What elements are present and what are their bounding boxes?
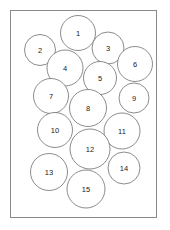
circle-label: 15	[82, 185, 90, 194]
circle-label: 2	[38, 46, 42, 55]
packed-circles-group: 123456789101112131415	[11, 11, 157, 218]
circle-label: 10	[51, 126, 59, 135]
circle-label: 4	[63, 64, 67, 73]
circle-layer: 123456789101112131415	[0, 0, 170, 230]
circle-label: 6	[133, 60, 137, 69]
circle-label: 3	[106, 44, 110, 53]
circle-label: 14	[120, 164, 128, 173]
circle-label: 1	[76, 29, 80, 38]
circle-label: 5	[98, 74, 102, 83]
circle-packing-figure: 123456789101112131415	[0, 0, 170, 230]
circle-label: 11	[118, 127, 126, 136]
circle-label: 7	[49, 92, 53, 101]
circle-label: 13	[45, 168, 53, 177]
circle-label: 9	[132, 94, 136, 103]
circle-label: 8	[86, 104, 90, 113]
circle-packing-canvas: 123456789101112131415	[0, 0, 170, 230]
circle-label: 12	[86, 145, 94, 154]
